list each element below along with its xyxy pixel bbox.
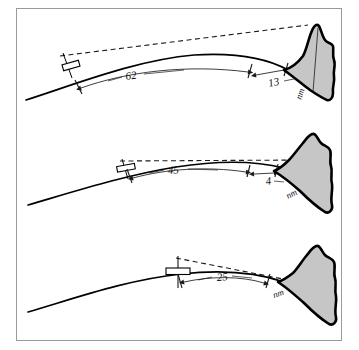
dimension-arc-4 bbox=[254, 173, 274, 174]
earth-surface-arc bbox=[28, 272, 284, 312]
line-of-sight-dashed bbox=[176, 258, 288, 280]
observer-marker bbox=[166, 256, 190, 288]
line-of-sight-dashed bbox=[60, 25, 308, 56]
label-distance-4: 4 bbox=[265, 174, 272, 187]
panel-middle: 45 4 nm bbox=[16, 119, 342, 230]
dimension-arc-13 bbox=[256, 70, 284, 75]
label-distance-62: 62 bbox=[125, 68, 138, 81]
earth-surface-arc bbox=[28, 162, 284, 205]
leader-right-13 bbox=[284, 79, 294, 81]
panel-bottom: 25 nm bbox=[16, 230, 342, 341]
label-distance-13: 13 bbox=[267, 75, 281, 89]
label-distance-25: 25 bbox=[216, 270, 228, 283]
leader-right-4 bbox=[274, 181, 284, 182]
line-of-sight-dashed bbox=[120, 160, 306, 161]
mountain-peak-shape bbox=[278, 246, 336, 325]
label-distance-45: 45 bbox=[167, 163, 179, 176]
figure-root: 62 13 nm bbox=[0, 0, 359, 350]
mountain-peak-shape bbox=[274, 134, 332, 213]
dimension-tick-right-45 bbox=[247, 165, 250, 177]
unit-label-nm: nm bbox=[272, 287, 286, 300]
dimension-arc-45 bbox=[133, 169, 246, 178]
dimension-tick-right-62 bbox=[248, 64, 252, 78]
dimension-tick-left-25 bbox=[178, 274, 182, 288]
observer-marker bbox=[62, 53, 80, 78]
panel-top: 62 13 nm bbox=[16, 8, 342, 119]
unit-label-nm: nm bbox=[293, 86, 306, 100]
mountain-peak-shape bbox=[284, 25, 335, 100]
